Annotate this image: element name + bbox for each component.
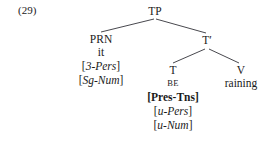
bracket-close: ]	[189, 119, 193, 131]
node-prn: PRN it [3-Pers] [Sg-Num]	[79, 33, 124, 87]
feature-text: u-Pers	[158, 105, 189, 117]
node-tp-label: TP	[148, 5, 161, 18]
branch-tbar-t	[173, 49, 205, 63]
feature-text: Pres-Tns	[151, 91, 195, 103]
node-t-bar: T′	[202, 34, 212, 47]
node-v: V raining	[225, 64, 258, 90]
feature-text: Sg-Num	[82, 74, 119, 86]
terminal-prn-it: it	[79, 46, 124, 59]
feature-text: u-Num	[157, 119, 188, 131]
syntax-tree-figure: (29) TP PRN it [3-Pers] [Sg-Num] T′ T BE…	[0, 0, 277, 146]
branch-tp-tbar	[156, 19, 206, 33]
feature-text: 3-Pers	[86, 60, 117, 72]
feature-prn-person: [3-Pers]	[79, 59, 124, 73]
bracket-close: ]	[116, 60, 120, 72]
branch-tbar-v	[209, 49, 239, 63]
bracket-close: ]	[195, 91, 199, 103]
node-t-label: T	[147, 64, 199, 77]
feature-t-unumber: [u-Num]	[147, 118, 199, 132]
feature-t-tense: [Pres-Tns]	[147, 90, 199, 104]
node-t-bar-label: T′	[202, 34, 212, 47]
bracket-close: ]	[188, 105, 192, 117]
node-prn-label: PRN	[79, 33, 124, 46]
bracket-close: ]	[120, 74, 124, 86]
terminal-t-be: BE	[147, 77, 199, 90]
node-v-label: V	[225, 64, 258, 77]
terminal-v-raining: raining	[225, 77, 258, 90]
feature-prn-number: [Sg-Num]	[79, 73, 124, 87]
node-tp: TP	[148, 5, 161, 18]
node-t: T BE [Pres-Tns] [u-Pers] [u-Num]	[147, 64, 199, 132]
branch-tp-prn	[101, 19, 154, 32]
feature-t-uperson: [u-Pers]	[147, 104, 199, 118]
